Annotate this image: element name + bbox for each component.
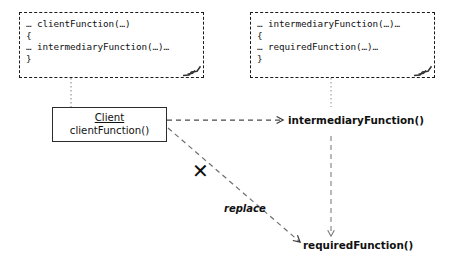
note-code-line: { xyxy=(257,30,427,42)
note-code-line: } xyxy=(257,53,427,65)
client-class-box[interactable]: Client clientFunction() xyxy=(52,107,167,142)
note-fold-icon xyxy=(182,64,202,77)
required-operation-label: requiredFunction() xyxy=(303,239,413,251)
note-fold-icon xyxy=(413,64,433,77)
dependency-client-to-required xyxy=(168,128,300,242)
replace-edge-label: replace xyxy=(224,203,266,214)
note-code-line: … intermediaryFunction(…)… xyxy=(257,18,427,30)
note-code-line: … clientFunction(…) xyxy=(26,18,196,30)
intermediary-code-note: … intermediaryFunction(…)… { … requiredF… xyxy=(250,12,435,78)
client-code-note: … clientFunction(…) { … intermediaryFunc… xyxy=(19,12,204,78)
intermediary-operation-label: intermediaryFunction() xyxy=(288,114,424,126)
class-member-label: clientFunction() xyxy=(53,124,166,137)
note-code-line: } xyxy=(26,53,196,65)
diagram-canvas: … clientFunction(…) { … intermediaryFunc… xyxy=(0,0,471,263)
cross-out-marker: ✕ xyxy=(192,161,209,181)
class-name-label: Client xyxy=(53,111,166,124)
note-code-line: … intermediaryFunction(…)… xyxy=(26,41,196,53)
note-code-line: … requiredFunction(…)… xyxy=(257,41,427,53)
note-code-line: { xyxy=(26,30,196,42)
